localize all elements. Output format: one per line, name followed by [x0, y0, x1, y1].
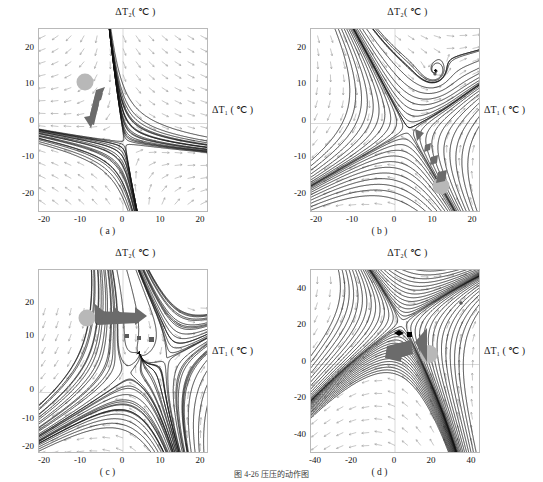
panel-c-xtick-0: -20	[30, 455, 58, 465]
panel-d-plot	[310, 269, 480, 453]
panel-a-y-axis-title: ΔT₂( ℃ )	[0, 6, 271, 17]
panel-d-ytick-1: 20	[282, 319, 306, 329]
panel-d: ΔT₂( ℃ ) ΔT₁ ( ℃ ) ( d ) 40 20	[272, 241, 543, 482]
panel-b-ytick-3: -10	[280, 151, 306, 161]
panel-a-ytick-1: 10	[12, 78, 34, 88]
panel-a-xtick-2: 0	[108, 214, 136, 224]
panel-b-x-axis-title: ΔT₁ ( ℃ )	[484, 104, 525, 115]
panel-a-ytick-3: -10	[8, 151, 34, 161]
panel-c-plot	[38, 269, 208, 453]
panel-c-ytick-4: -20	[8, 441, 34, 451]
panel-b-xtick-4: 20	[458, 214, 486, 224]
panel-a-xtick-4: 20	[186, 214, 214, 224]
panel-a-ytick-0: 20	[12, 42, 34, 52]
panel-b-xtick-2: 0	[380, 214, 408, 224]
panel-d-x-axis-title: ΔT₁ ( ℃ )	[484, 345, 525, 356]
panel-c-vector-field	[39, 270, 207, 452]
panel-c-xtick-1: -10	[66, 455, 94, 465]
panel-d-xtick-4: 40	[456, 455, 486, 465]
panel-b-ytick-4: -20	[280, 188, 306, 198]
panel-a-ytick-2: 0	[12, 115, 34, 125]
panel-d-xtick-2: 0	[379, 455, 409, 465]
panel-d-ytick-0: 40	[282, 283, 306, 293]
panel-d-ytick-4: -40	[278, 429, 306, 439]
panel-c-ytick-1: 10	[12, 330, 34, 340]
panel-c-y-axis-title: ΔT₂( ℃ )	[0, 247, 271, 258]
panel-a-trajectory-arrow	[84, 87, 105, 128]
panel-d-focus-point	[459, 301, 463, 305]
panel-c-x-axis-title: ΔT₁ ( ℃ )	[212, 345, 253, 356]
panel-a-xtick-1: -10	[66, 214, 94, 224]
panel-a-plot	[38, 28, 208, 212]
panel-c-marker-3	[149, 337, 154, 342]
panel-d-y-axis-title: ΔT₂( ℃ )	[272, 247, 543, 258]
panel-c-ytick-2: 0	[12, 384, 34, 394]
panel-c: ΔT₂( ℃ ) ΔT₁ ( ℃ ) ( c ) 20	[0, 241, 271, 482]
panel-a-x-axis-title: ΔT₁ ( ℃ )	[212, 104, 253, 115]
figure-caption: 图 4-26 压压的动作图	[0, 468, 543, 479]
panel-d-ytick-2: 0	[282, 356, 306, 366]
panel-a: ΔT₂( ℃ ) ΔT₁ ( ℃ ) ( a )	[0, 0, 271, 241]
panel-a-label: ( a )	[0, 226, 243, 236]
panel-a-start-blob	[77, 74, 94, 91]
panel-b-focus-point	[433, 72, 436, 75]
panel-d-xtick-1: -20	[336, 455, 366, 465]
panel-a-ytick-4: -20	[8, 188, 34, 198]
panel-d-ytick-3: -20	[278, 392, 306, 402]
panel-c-ytick-3: -10	[8, 413, 34, 423]
panel-b-ytick-2: 0	[284, 115, 306, 125]
panel-b-vector-field	[311, 29, 479, 211]
panel-c-xtick-3: 10	[146, 455, 174, 465]
panel-c-marker-1	[125, 334, 129, 338]
panel-b-plot	[310, 28, 480, 212]
panel-c-ytick-0: 20	[12, 297, 34, 307]
panel-d-xtick-3: 20	[416, 455, 446, 465]
panel-c-start-blob	[79, 310, 96, 327]
figure-root: ΔT₂( ℃ ) ΔT₁ ( ℃ ) ( a )	[0, 0, 543, 482]
panel-b-ytick-1: 10	[284, 78, 306, 88]
panel-c-marker-2	[137, 336, 141, 340]
panel-a-xtick-0: -20	[30, 214, 58, 224]
panel-b-ytick-0: 20	[284, 42, 306, 52]
panel-b-xtick-1: -10	[338, 214, 366, 224]
panel-d-xtick-0: -40	[300, 455, 330, 465]
panel-b-y-axis-title: ΔT₂( ℃ )	[272, 6, 543, 17]
panel-d-vector-field	[311, 270, 479, 452]
panel-b-xtick-0: -20	[302, 214, 330, 224]
panel-b-xtick-3: 10	[418, 214, 446, 224]
panel-a-xtick-3: 10	[146, 214, 174, 224]
panel-c-xtick-4: 20	[186, 455, 214, 465]
panel-a-vector-field	[39, 29, 207, 211]
panel-c-xtick-2: 0	[108, 455, 136, 465]
panel-b-label: ( b )	[244, 226, 515, 236]
panel-b: ΔT₂( ℃ ) ΔT₁ ( ℃ ) ( b ) 20 10 0 -	[272, 0, 543, 241]
